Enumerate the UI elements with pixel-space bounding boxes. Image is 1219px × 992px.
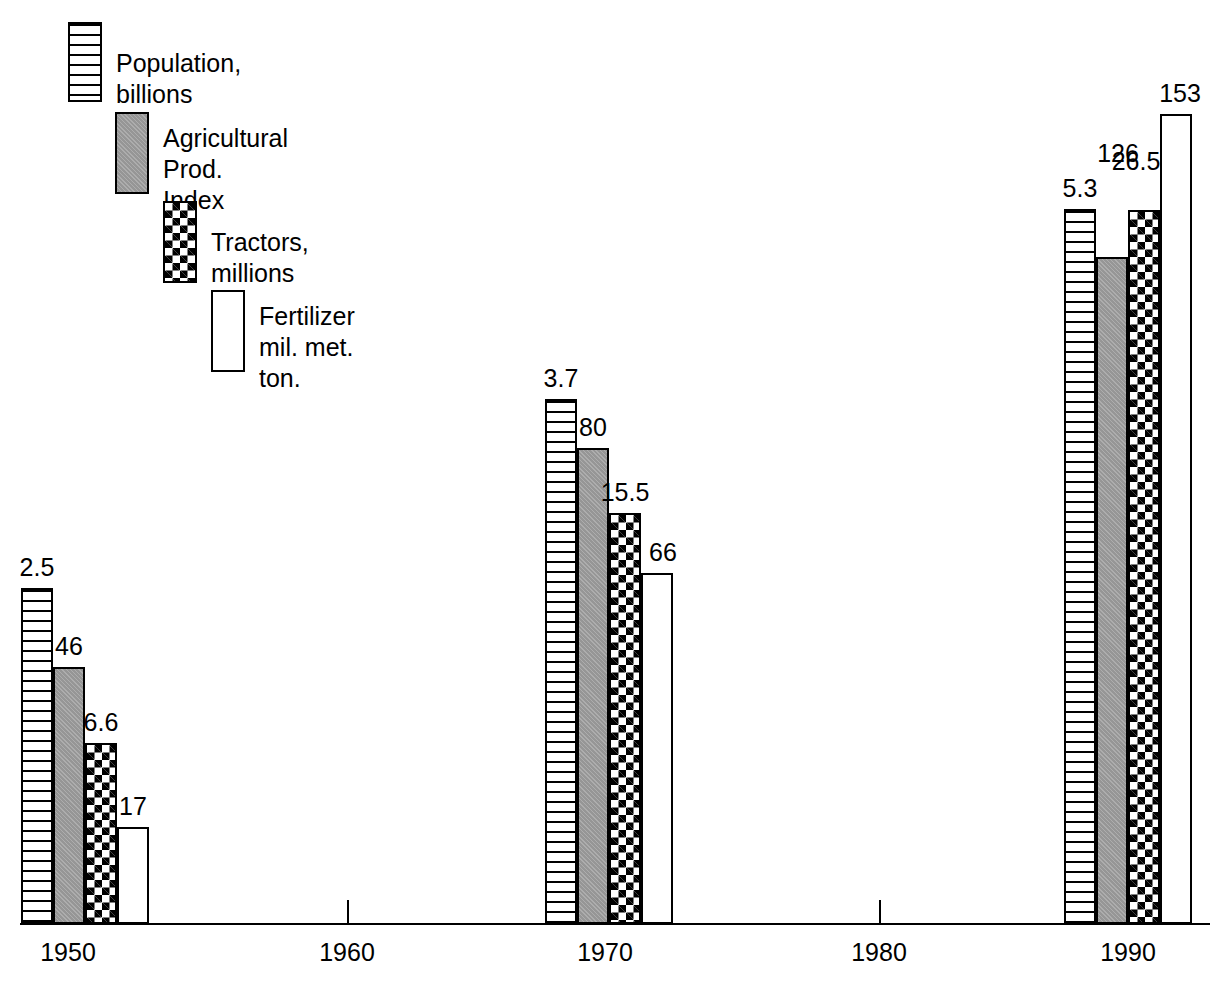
- chart-canvas: Population, billions Agricultural Prod. …: [0, 0, 1219, 992]
- bar-value-agricultural-1970: 80: [579, 413, 607, 442]
- plot-area: 2.5 46 6.6 17 3.7 80 15.5 66 5.3 126 26.…: [0, 0, 1219, 992]
- bar-population-1970: [545, 399, 577, 924]
- bar-value-fertilizer-1950: 17: [119, 792, 147, 821]
- bar-tractors-1990: [1128, 210, 1160, 924]
- bar-value-population-1970: 3.7: [544, 364, 579, 393]
- x-axis-label-1970: 1970: [577, 938, 633, 967]
- bar-population-1950: [21, 588, 53, 924]
- bar-value-tractors-1950: 6.6: [84, 708, 119, 737]
- x-axis-tick-1980: [879, 900, 881, 924]
- bar-value-population-1990: 5.3: [1063, 174, 1098, 203]
- bar-value-tractors-1990: 26.5: [1112, 147, 1161, 176]
- bar-fertilizer-1950: [117, 827, 149, 924]
- bar-value-fertilizer-1970: 66: [649, 538, 677, 567]
- bar-tractors-1970: [609, 513, 641, 924]
- bar-value-fertilizer-1990: 153: [1159, 79, 1201, 108]
- bar-agricultural-1990: [1096, 257, 1128, 924]
- bar-value-population-1950: 2.5: [20, 553, 55, 582]
- x-axis-label-1950: 1950: [40, 938, 96, 967]
- bar-agricultural-1950: [53, 667, 85, 924]
- x-axis-label-1960: 1960: [319, 938, 375, 967]
- x-axis-tick-1960: [347, 900, 349, 924]
- bar-fertilizer-1990: [1160, 114, 1192, 924]
- bar-agricultural-1970: [577, 448, 609, 924]
- x-axis-label-1980: 1980: [851, 938, 907, 967]
- bar-value-agricultural-1950: 46: [55, 632, 83, 661]
- bar-population-1990: [1064, 209, 1096, 924]
- x-axis-label-1990: 1990: [1100, 938, 1156, 967]
- bar-value-tractors-1970: 15.5: [601, 478, 650, 507]
- bar-fertilizer-1970: [641, 573, 673, 924]
- bar-tractors-1950: [85, 743, 117, 924]
